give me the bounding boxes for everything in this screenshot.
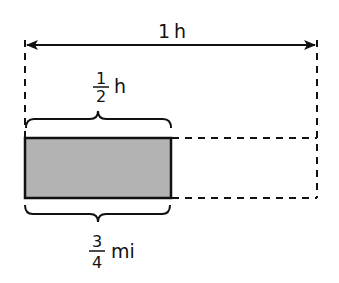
bottom-brace [25,205,170,222]
distance-unit: mi [111,240,135,262]
distance-denominator: 4 [92,253,102,272]
half-numerator: 1 [96,69,106,88]
half-unit: h [114,75,126,97]
traveled-segment [25,138,171,198]
total-time-unit: h [174,20,186,42]
diagram-canvas: 1 h 1 2 h 3 4 mi [0,0,339,283]
tape-diagram: 1 h 1 2 h 3 4 mi [0,0,339,283]
top-brace [26,111,171,128]
total-time-number: 1 [158,20,170,42]
half-denominator: 2 [96,87,106,106]
distance-numerator: 3 [92,232,102,251]
